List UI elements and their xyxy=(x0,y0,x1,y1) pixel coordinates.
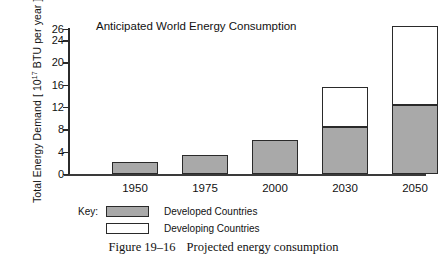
y-tick-label: 8 xyxy=(58,124,64,135)
bar-segment-2030-developed xyxy=(322,127,368,174)
legend-row-developed: Key: Developed Countries xyxy=(78,203,260,220)
x-tick-label-2050: 2050 xyxy=(380,182,447,194)
legend: Key: Developed Countries Developing Coun… xyxy=(78,203,260,237)
bar-group-1975 xyxy=(182,155,228,174)
y-tick-label: 0 xyxy=(58,169,64,180)
figure-caption: Figure 19–16Projected energy consumption xyxy=(0,240,447,255)
y-tick-label: 26 xyxy=(52,24,64,35)
bar-segment-2000-developed xyxy=(252,140,298,174)
bar-segment-2030-developing xyxy=(322,87,368,127)
caption-text: Projected energy consumption xyxy=(187,240,339,254)
bar-group-2000 xyxy=(252,140,298,174)
legend-label-developed: Developed Countries xyxy=(164,206,257,217)
bar-segment-1975-developed xyxy=(182,155,228,174)
x-tick-label-2000: 2000 xyxy=(240,182,310,194)
x-tick-label-1950: 1950 xyxy=(100,182,170,194)
x-tick-label-2030: 2030 xyxy=(310,182,380,194)
caption-figure-number: Figure 19–16 xyxy=(109,240,176,254)
x-axis-line xyxy=(64,174,426,176)
bar-group-2050 xyxy=(392,26,438,174)
x-tick-label-1975: 1975 xyxy=(170,182,240,194)
legend-key-label: Key: xyxy=(78,206,106,217)
y-tick-label: 4 xyxy=(58,146,64,157)
y-axis-title-suffix: BTU per year ] xyxy=(31,0,43,71)
legend-row-developing: Developing Countries xyxy=(78,220,260,237)
y-axis-title-prefix: Total Energy Demand [ 10 xyxy=(31,79,43,203)
y-tick-label: 16 xyxy=(52,79,64,90)
legend-swatch-developing-icon xyxy=(106,223,149,234)
y-tick-label: 12 xyxy=(52,102,64,113)
bar-segment-1950-developed xyxy=(112,162,158,174)
legend-label-developing: Developing Countries xyxy=(164,223,260,234)
figure-container: Total Energy Demand [ 1017 BTU per year … xyxy=(0,0,447,262)
plot-area: 0481216202426 19501975200020302050 xyxy=(68,26,428,178)
bar-group-2030 xyxy=(322,87,368,174)
bar-segment-2050-developing xyxy=(392,26,438,105)
bar-segment-2050-developed xyxy=(392,105,438,174)
bar-group-1950 xyxy=(112,162,158,174)
y-tick-label: 20 xyxy=(52,57,64,68)
y-axis-title: Total Energy Demand [ 1017 BTU per year … xyxy=(31,3,43,203)
y-tick-label: 24 xyxy=(52,35,64,46)
legend-swatch-developed-icon xyxy=(106,206,149,217)
y-axis-title-exponent: 17 xyxy=(31,71,38,79)
